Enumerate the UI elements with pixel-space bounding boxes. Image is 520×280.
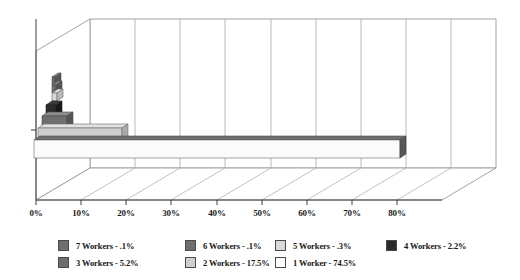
legend-swatch-icon: [386, 240, 397, 251]
bar-1-worker: [34, 136, 406, 158]
legend-label: 5 Workers - .3%: [293, 241, 351, 251]
x-tick-label: 10%: [72, 208, 89, 218]
x-axis-ticks: [36, 200, 397, 205]
legend-item-5-workers[interactable]: 5 Workers - .3%: [275, 240, 351, 251]
chart-root: 0% 10% 20% 30% 40% 50% 60% 70% 80% 7 Wor…: [0, 0, 520, 280]
legend-label: 3 Workers - 5.2%: [76, 258, 138, 268]
legend-item-1-worker[interactable]: 1 Worker - 74.5%: [275, 257, 356, 268]
legend-swatch-icon: [275, 257, 286, 268]
legend-swatch-icon: [275, 240, 286, 251]
chart-plot-area: [0, 0, 520, 232]
legend-item-4-workers[interactable]: 4 Workers - 2.2%: [386, 240, 466, 251]
legend-label: 7 Workers - .1%: [76, 241, 134, 251]
chart-floor: [36, 168, 496, 200]
x-tick-label: 30%: [162, 208, 179, 218]
x-tick-label: 80%: [388, 208, 405, 218]
legend-label: 2 Workers - 17.5%: [203, 258, 270, 268]
chart-svg: [0, 0, 520, 232]
chart-legend: 7 Workers - .1% 6 Workers - .1% 5 Worker…: [0, 236, 520, 280]
x-tick-label: 60%: [298, 208, 315, 218]
legend-swatch-icon: [58, 257, 69, 268]
legend-label: 4 Workers - 2.2%: [404, 241, 466, 251]
legend-swatch-icon: [58, 240, 69, 251]
legend-item-7-workers[interactable]: 7 Workers - .1%: [58, 240, 134, 251]
legend-item-2-workers[interactable]: 2 Workers - 17.5%: [185, 257, 270, 268]
x-tick-label: 20%: [117, 208, 134, 218]
legend-label: 6 Workers - .1%: [203, 241, 261, 251]
x-axis-labels: 0% 10% 20% 30% 40% 50% 60% 70% 80%: [0, 208, 520, 224]
legend-label: 1 Worker - 74.5%: [293, 258, 356, 268]
legend-item-3-workers[interactable]: 3 Workers - 5.2%: [58, 257, 138, 268]
legend-swatch-icon: [185, 240, 196, 251]
x-tick-label: 40%: [208, 208, 225, 218]
x-tick-label: 50%: [253, 208, 270, 218]
x-tick-label: 0%: [29, 208, 42, 218]
legend-swatch-icon: [185, 257, 196, 268]
legend-item-6-workers[interactable]: 6 Workers - .1%: [185, 240, 261, 251]
x-tick-label: 70%: [343, 208, 360, 218]
